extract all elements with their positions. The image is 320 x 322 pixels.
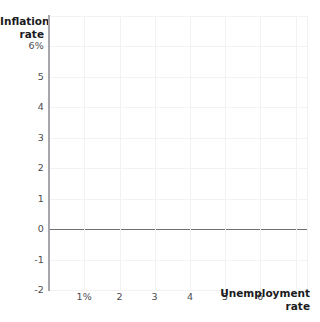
y-axis-line: [48, 15, 50, 291]
x-axis-tick-label: 2: [108, 292, 132, 302]
y-axis-tick-label: 0: [38, 224, 44, 234]
y-axis-tick-label: 5: [38, 72, 44, 82]
vertical-gridline: [296, 16, 297, 290]
horizontal-gridline: [49, 199, 308, 200]
horizontal-gridline: [49, 138, 308, 139]
y-axis-tick-label: 1: [38, 194, 44, 204]
x-axis-title: Unemployment rate: [190, 287, 310, 312]
y-axis-title-line-2: rate: [0, 28, 44, 41]
y-axis-tick-label: 4: [38, 102, 44, 112]
y-axis-title: Inflation rate: [0, 15, 44, 40]
y-axis-tick-label: -1: [34, 255, 44, 265]
vertical-gridline: [120, 16, 121, 290]
vertical-gridline: [225, 16, 226, 290]
y-axis-title-line-1: Inflation: [0, 15, 44, 28]
y-axis-tick-label: 2: [38, 163, 44, 173]
horizontal-gridline: [49, 77, 308, 78]
zero-reference-line: [48, 229, 308, 230]
horizontal-gridline: [49, 168, 308, 169]
y-axis-tick-label: -2: [34, 285, 44, 295]
horizontal-gridline: [49, 107, 308, 108]
vertical-gridline: [84, 16, 85, 290]
vertical-gridline: [155, 16, 156, 290]
vertical-gridline: [260, 16, 261, 290]
x-axis-tick-label: 1%: [72, 292, 96, 302]
y-axis-tick-label: 3: [38, 133, 44, 143]
horizontal-gridline: [49, 260, 308, 261]
y-axis-tick-label: 6%: [29, 41, 44, 51]
vertical-gridline: [307, 16, 308, 290]
plot-area: [49, 16, 308, 290]
x-axis-title-line-2: rate: [190, 300, 310, 313]
x-axis-title-line-1: Unemployment: [190, 287, 310, 300]
phillips-curve-empty-chart: Inflation rate 6%543210-1-2 1%23456 Unem…: [0, 0, 320, 322]
horizontal-gridline: [49, 46, 308, 47]
horizontal-gridline: [49, 16, 308, 17]
vertical-gridline: [190, 16, 191, 290]
x-axis-tick-label: 3: [143, 292, 167, 302]
